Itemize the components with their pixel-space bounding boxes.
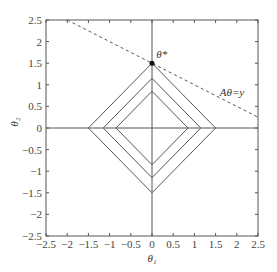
y-tick-label: −1.5: [22, 187, 42, 199]
x-tick-label: −2: [61, 238, 73, 250]
l1-regularization-chart: −2.5−2−1.5−1−0.500.511.522.52.521.510.50…: [0, 0, 277, 272]
y-tick-label: −2: [30, 208, 42, 220]
y-tick-label: 0.5: [28, 100, 42, 112]
solution-point: [150, 61, 155, 66]
x-tick-label: 2.5: [251, 238, 265, 250]
constraint-label: Aθ=y: [219, 86, 245, 98]
y-tick-label: 2: [37, 36, 43, 48]
y-tick-label: 2.5: [28, 14, 42, 26]
y-tick-label: 1: [37, 79, 43, 91]
x-tick-label: −1.5: [78, 238, 98, 250]
y-tick-label: −0.5: [22, 144, 42, 156]
x-tick-label: 0: [149, 238, 155, 250]
y-tick-label: 0: [37, 122, 43, 134]
theta-star-label: θ*: [156, 48, 167, 60]
x-tick-label: 1: [192, 238, 198, 250]
x-tick-label: 0.5: [166, 238, 180, 250]
x-axis-label: θ₁: [147, 252, 156, 264]
y-tick-label: −2.5: [22, 230, 42, 242]
x-tick-label: −1: [104, 238, 116, 250]
y-axis-label: θ₂: [8, 117, 20, 126]
y-tick-label: −1: [30, 165, 42, 177]
y-tick-label: 1.5: [28, 57, 42, 69]
x-tick-label: 1.5: [209, 238, 223, 250]
x-tick-label: 2: [234, 238, 240, 250]
x-tick-label: −0.5: [121, 238, 141, 250]
